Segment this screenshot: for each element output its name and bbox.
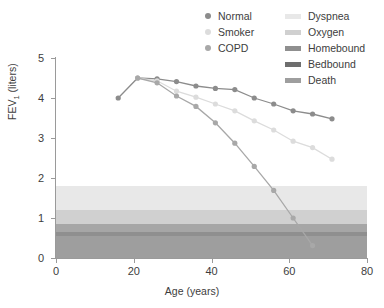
y-tick-label: 4 [30, 93, 44, 104]
data-point [310, 111, 315, 116]
data-point [291, 139, 296, 144]
legend-dot-icon [205, 13, 211, 19]
legend-item-smoker[interactable]: Smoker [205, 24, 277, 40]
x-tick [367, 259, 368, 263]
x-tick [134, 259, 135, 263]
data-point [271, 101, 276, 106]
series-copd [135, 75, 315, 248]
legend-item-copd[interactable]: COPD [205, 40, 277, 56]
data-point [174, 93, 179, 98]
plot-area [56, 58, 367, 258]
data-point [135, 75, 140, 80]
data-point [310, 243, 315, 248]
legend-item-bedbound[interactable]: Bedbound [285, 56, 381, 72]
data-point [252, 164, 257, 169]
legend-item-label: Homebound [308, 43, 365, 54]
data-point [174, 79, 179, 84]
x-axis-title: Age (years) [0, 285, 384, 297]
legend-item-normal[interactable]: Normal [205, 8, 277, 24]
y-tick [51, 98, 55, 99]
data-point [116, 95, 121, 100]
x-tick-label: 0 [44, 266, 68, 277]
legend-item-death[interactable]: Death [285, 72, 381, 88]
data-point [213, 101, 218, 106]
data-point [174, 89, 179, 94]
legend-swatch-icon [285, 30, 301, 35]
legend-dot-icon [205, 45, 211, 51]
x-tick-label: 60 [277, 266, 301, 277]
series-line [138, 78, 313, 246]
legend-item-label: Bedbound [308, 59, 356, 70]
data-point [271, 188, 276, 193]
legend-dot-icon [205, 29, 211, 35]
y-tick [51, 218, 55, 219]
data-point [232, 87, 237, 92]
x-tick-label: 40 [200, 266, 224, 277]
y-tick [51, 58, 55, 59]
data-point [213, 120, 218, 125]
legend-item-label: Death [308, 75, 336, 86]
x-tick [212, 259, 213, 263]
y-tick-label: 3 [30, 133, 44, 144]
legend-bands-column: DyspneaOxygenHomeboundBedboundDeath [285, 8, 381, 88]
legend-series-column: NormalSmokerCOPD [205, 8, 277, 56]
legend-item-label: COPD [218, 43, 248, 54]
legend-item-label: Oxygen [308, 27, 344, 38]
legend-swatch-icon [285, 62, 301, 67]
data-point [193, 95, 198, 100]
legend-swatch-icon [285, 78, 301, 83]
legend-item-homebound[interactable]: Homebound [285, 40, 381, 56]
legend-item-label: Normal [218, 11, 252, 22]
y-tick-label: 0 [30, 253, 44, 264]
chart-container: 012345020406080 FEV1 (liters) Age (years… [0, 0, 384, 308]
y-tick [51, 138, 55, 139]
data-point [213, 86, 218, 91]
data-point [193, 83, 198, 88]
y-axis-title: FEV1 (liters) [6, 63, 21, 120]
y-tick-label: 1 [30, 213, 44, 224]
x-tick [289, 259, 290, 263]
y-tick-label: 5 [30, 53, 44, 64]
data-point [252, 118, 257, 123]
legend-item-oxygen[interactable]: Oxygen [285, 24, 381, 40]
data-point [232, 141, 237, 146]
x-tick-label: 80 [355, 266, 379, 277]
legend-swatch-icon [285, 14, 301, 19]
legend-swatch-icon [285, 46, 301, 51]
x-tick-label: 20 [122, 266, 146, 277]
data-point [329, 157, 334, 162]
data-point [154, 80, 159, 85]
y-axis-line [55, 57, 56, 259]
legend-item-label: Smoker [218, 27, 254, 38]
data-point [271, 127, 276, 132]
data-point [193, 104, 198, 109]
series-lines [56, 58, 367, 258]
x-tick [56, 259, 57, 263]
y-tick [51, 178, 55, 179]
y-tick-label: 2 [30, 173, 44, 184]
data-point [291, 215, 296, 220]
data-point [252, 95, 257, 100]
legend-item-dyspnea[interactable]: Dyspnea [285, 8, 381, 24]
data-point [310, 145, 315, 150]
data-point [232, 108, 237, 113]
data-point [329, 116, 334, 121]
legend-item-label: Dyspnea [308, 11, 349, 22]
data-point [291, 108, 296, 113]
y-tick [51, 258, 55, 259]
